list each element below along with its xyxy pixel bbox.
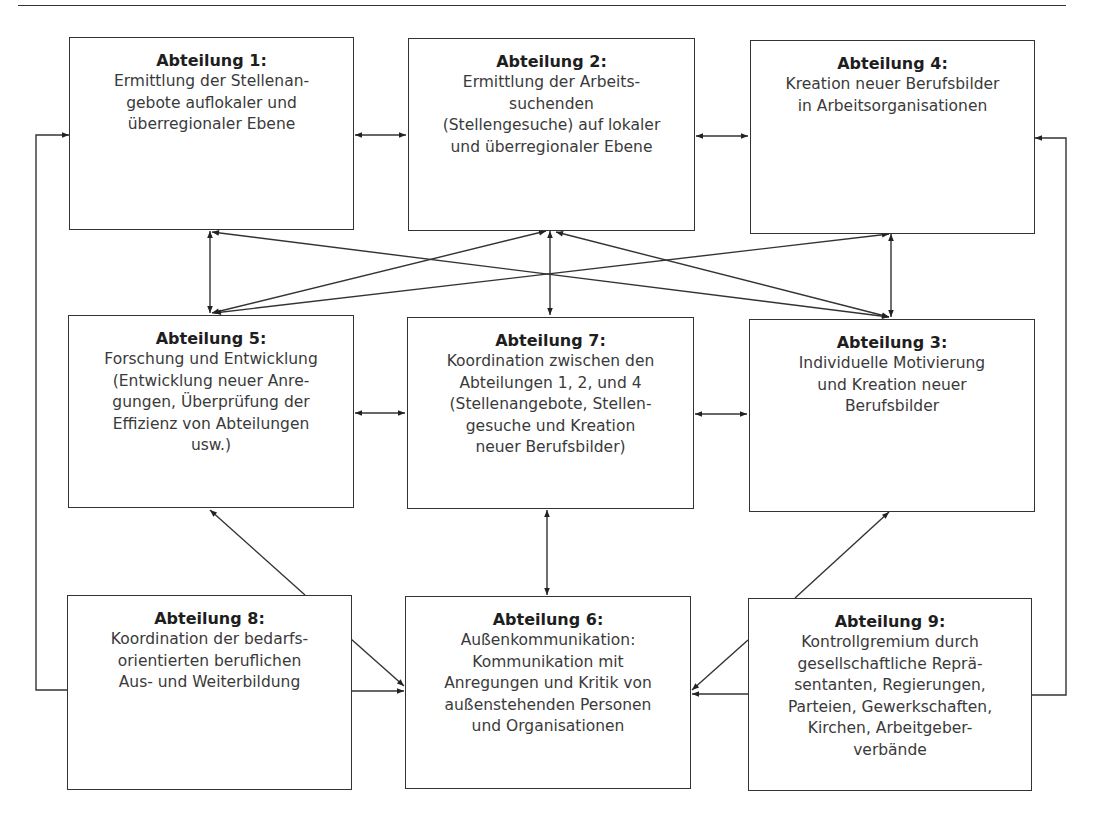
box-title: Abteilung 5: — [69, 328, 353, 349]
edge-9-3 — [795, 512, 889, 598]
edge-2-3 — [556, 232, 889, 317]
edge-8-1 — [36, 135, 69, 690]
box-abteilung-8: Abteilung 8: Koordination der bedarfs- o… — [67, 595, 352, 790]
box-title: Abteilung 1: — [70, 50, 353, 71]
box-title: Abteilung 9: — [749, 611, 1031, 632]
box-description: Individuelle Motivierung und Kreation ne… — [750, 353, 1034, 418]
box-description: Ermittlung der Arbeits- suchenden (Stell… — [409, 72, 694, 158]
box-title: Abteilung 2: — [409, 51, 694, 72]
edge-9-6-diag — [692, 640, 748, 690]
box-abteilung-6: Abteilung 6: Außenkommunikation: Kommuni… — [405, 596, 691, 789]
box-title: Abteilung 4: — [751, 53, 1034, 74]
box-description: Kreation neuer Berufsbilder in Arbeitsor… — [751, 74, 1034, 117]
box-description: Forschung und Entwicklung (Entwicklung n… — [69, 349, 353, 457]
box-abteilung-4: Abteilung 4: Kreation neuer Berufsbilder… — [750, 40, 1035, 234]
edge-5-4 — [214, 234, 889, 313]
box-description: Koordination zwischen den Abteilungen 1,… — [408, 351, 693, 459]
edge-9-4 — [1031, 138, 1066, 695]
box-description: Koordination der bedarfs- orientierten b… — [68, 629, 351, 694]
box-description: Ermittlung der Stellenan- gebote aufloka… — [70, 71, 353, 136]
box-description: Kontrollgremium durch gesellschaftliche … — [749, 632, 1031, 761]
edge-8-5 — [210, 510, 305, 595]
box-abteilung-1: Abteilung 1: Ermittlung der Stellenan- g… — [69, 37, 354, 230]
box-title: Abteilung 8: — [68, 608, 351, 629]
box-abteilung-5: Abteilung 5: Forschung und Entwicklung (… — [68, 315, 354, 508]
box-title: Abteilung 6: — [406, 609, 690, 630]
edge-5-2 — [212, 231, 546, 313]
edge-8-6-diag — [351, 639, 404, 686]
box-title: Abteilung 7: — [408, 330, 693, 351]
box-abteilung-9: Abteilung 9: Kontrollgremium durch gesel… — [748, 598, 1032, 791]
box-description: Außenkommunikation: Kommunikation mit An… — [406, 630, 690, 738]
box-abteilung-3: Abteilung 3: Individuelle Motivierung un… — [749, 319, 1035, 512]
box-abteilung-2: Abteilung 2: Ermittlung der Arbeits- suc… — [408, 38, 695, 231]
box-title: Abteilung 3: — [750, 332, 1034, 353]
box-abteilung-7: Abteilung 7: Koordination zwischen den A… — [407, 317, 694, 509]
